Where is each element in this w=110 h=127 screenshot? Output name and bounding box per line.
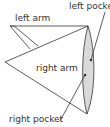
left-arm-label: left arm [15, 13, 50, 23]
right-pocket-label: right pocket [9, 114, 64, 124]
right-pocket-leader [60, 75, 85, 121]
cone-base-lens [83, 26, 94, 114]
left-pocket-leader [91, 12, 105, 60]
right-arm-label: right arm [36, 63, 78, 73]
left-arm-lower-edge-1 [10, 26, 30, 49]
left-pocket-label: left pocket [69, 1, 110, 11]
cone-diagram: left arm right arm left pocket right poc… [0, 0, 110, 127]
left-arm-lower-edge-2 [14, 26, 38, 46]
right-arm-upper-edge [5, 26, 88, 62]
